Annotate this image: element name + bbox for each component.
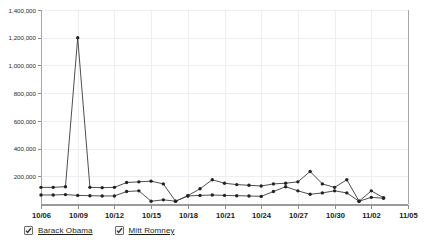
series-data-point[interactable] [113,194,116,197]
y-tick-label: 600,000 [14,118,37,125]
series-data-point[interactable] [162,198,165,201]
series-data-point[interactable] [333,186,336,189]
series-data-point[interactable] [137,189,140,192]
series-data-point[interactable] [284,185,287,188]
series-data-point[interactable] [125,181,128,184]
y-tick-label: 1,000,000 [8,62,36,69]
legend-item-label: Barack Obama [38,226,93,235]
series-data-point[interactable] [76,36,79,39]
y-tick-label: 1,200,000 [8,34,36,41]
y-tick-label: 1,400,000 [8,7,36,14]
series-data-point[interactable] [186,194,189,197]
series-data-point[interactable] [149,200,152,203]
chart-series [39,36,385,203]
x-tick-label: 10/30 [326,211,345,219]
x-tick-label: 10/18 [179,211,198,219]
series-data-point[interactable] [345,191,348,194]
series-data-point[interactable] [88,194,91,197]
series-data-point[interactable] [64,185,67,188]
series-data-point[interactable] [39,186,42,189]
series-data-point[interactable] [211,178,214,181]
x-tick-label: 10/27 [289,211,308,219]
series-data-point[interactable] [52,186,55,189]
series-data-point[interactable] [198,194,201,197]
series-data-point[interactable] [382,196,385,199]
series-data-point[interactable] [149,179,152,182]
series-data-point[interactable] [113,186,116,189]
x-tick-label: 10/24 [252,211,272,219]
series-data-point[interactable] [223,182,226,185]
series-data-point[interactable] [235,194,238,197]
series-data-point[interactable] [64,193,67,196]
series-data-point[interactable] [137,180,140,183]
x-tick-label: 11/05 [399,211,418,219]
series-data-point[interactable] [260,184,263,187]
series-data-point[interactable] [162,182,165,185]
series-data-point[interactable] [52,193,55,196]
series-data-point[interactable] [235,183,238,186]
x-tick-label: 10/06 [32,211,51,219]
series-data-point[interactable] [308,193,311,196]
series-data-point[interactable] [370,189,373,192]
chart-legend: Barack Obama Mitt Romney [0,219,431,242]
x-tick-label: 10/21 [216,211,236,219]
series-data-point[interactable] [76,194,79,197]
series-data-point[interactable] [100,186,103,189]
x-tick-label: 11/02 [362,211,381,219]
series-data-point[interactable] [174,200,177,203]
series-data-point[interactable] [223,194,226,197]
x-tick-label: 10/09 [69,211,88,219]
series-data-point[interactable] [198,187,201,190]
series-data-point[interactable] [247,184,250,187]
legend-item-barack-obama[interactable]: Barack Obama [24,226,93,235]
series-data-point[interactable] [333,189,336,192]
series-data-point[interactable] [88,186,91,189]
chart-plot-area: 1,400,0001,200,0001,000,000800,000600,00… [0,0,431,219]
series-data-point[interactable] [39,193,42,196]
series-data-point[interactable] [247,194,250,197]
checkbox-checked-icon[interactable] [115,226,124,235]
x-tick-label: 10/12 [105,211,124,219]
series-data-point[interactable] [100,194,103,197]
line-chart-widget: 1,400,0001,200,0001,000,000800,000600,00… [0,0,431,242]
series-data-point[interactable] [272,190,275,193]
series-data-point[interactable] [357,200,360,203]
legend-item-label: Mitt Romney [129,226,175,235]
series-data-point[interactable] [272,182,275,185]
series-data-point[interactable] [321,182,324,185]
series-data-point[interactable] [345,178,348,181]
x-tick-label: 10/15 [142,211,162,219]
series-data-point[interactable] [321,191,324,194]
series-data-point[interactable] [284,182,287,185]
series-data-point[interactable] [125,190,128,193]
series-data-point[interactable] [260,195,263,198]
checkbox-checked-icon[interactable] [24,226,33,235]
y-tick-label: 400,000 [14,145,37,152]
series-data-point[interactable] [211,193,214,196]
y-tick-label: 200,000 [14,173,37,180]
legend-item-mitt-romney[interactable]: Mitt Romney [115,226,175,235]
series-data-point[interactable] [296,180,299,183]
series-data-point[interactable] [308,170,311,173]
series-data-point[interactable] [370,196,373,199]
y-tick-label: 800,000 [14,90,37,97]
series-data-point[interactable] [296,189,299,192]
